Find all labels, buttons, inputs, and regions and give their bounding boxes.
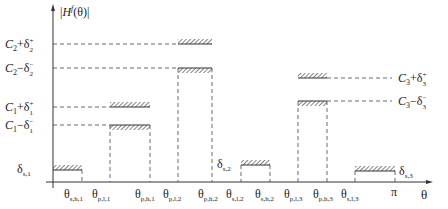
- label-delta-s2: δs,2: [217, 157, 231, 173]
- passband-3-lower-bar: [298, 101, 327, 106]
- tick-theta-p-h-2: θp,h,2: [198, 187, 218, 203]
- stopband-2-bar: [241, 160, 270, 165]
- passband-2-upper-bar: [178, 39, 212, 44]
- tick-theta-s-h-2: θs,h,2: [255, 187, 274, 203]
- label-c3-plus: C3+δ+3: [398, 71, 426, 88]
- tick-theta-p-l-1: θp,l,1: [92, 187, 111, 203]
- tolerance-bars: [53, 39, 395, 171]
- x-axis-label: θ: [421, 187, 427, 202]
- passband-2-lower-bar: [178, 68, 212, 73]
- label-c2-plus: C2+δ+2: [5, 37, 33, 54]
- label-delta-s1: δs,1: [17, 162, 31, 178]
- filter-tolerance-diagram: |Hf(θ)| θ: [0, 0, 448, 209]
- label-c2-minus: C2−δ−2: [5, 61, 33, 78]
- tick-pi: π: [391, 185, 397, 199]
- y-axis-label: |Hf(θ)|: [60, 4, 89, 19]
- label-c3-minus: C3−δ−3: [398, 94, 426, 111]
- label-c1-plus: C1+δ+1: [5, 100, 33, 117]
- stopband-3-bar: [355, 166, 395, 171]
- tick-theta-p-h-1: θp,h,1: [135, 187, 155, 203]
- axes: [46, 4, 433, 188]
- left-level-labels: C2+δ+2 C2−δ−2 C1+δ+1 C1−δ−1 δs,1: [5, 37, 33, 178]
- tick-theta-p-l-3: θp,l,3: [284, 187, 303, 203]
- label-delta-s3: δs,3: [399, 164, 413, 180]
- tick-theta-p-h-3: θp,h,3: [313, 187, 333, 203]
- label-c1-minus: C1−δ−1: [5, 118, 33, 135]
- guide-lines: [53, 44, 395, 182]
- x-axis-arrow-icon: [426, 180, 433, 184]
- tick-theta-p-l-2: θp,l,2: [163, 187, 182, 203]
- tick-theta-s-l-2: θs,l,2: [226, 187, 244, 203]
- y-axis-arrow-icon: [51, 4, 55, 11]
- passband-3-upper-bar: [298, 73, 327, 78]
- tick-theta-s-h-1: θs,h,1: [64, 187, 83, 203]
- passband-1-lower-bar: [110, 125, 150, 130]
- x-tick-labels: θs,h,1 θp,l,1 θp,h,1 θp,l,2 θp,h,2 θs,l,…: [64, 185, 397, 203]
- stopband-1-bar: [53, 165, 82, 170]
- passband-1-upper-bar: [110, 102, 150, 107]
- tick-theta-s-l-3: θs,l,3: [341, 187, 359, 203]
